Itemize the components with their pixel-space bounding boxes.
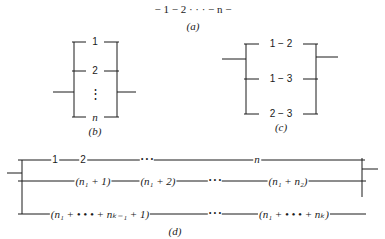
panel-b-caption: (b) <box>88 125 103 137</box>
diagram-canvas <box>0 0 385 239</box>
panel-d-row2-ellipsis: • • • <box>208 175 222 187</box>
panel-d-row1-item-2: 2 <box>79 154 87 166</box>
panel-a-chain: − 1 − 2 · · · − n − <box>153 3 232 15</box>
panel-d-row1-item-n: n <box>253 153 261 165</box>
panel-c-pair-1-2: 1 − 2 <box>269 38 294 50</box>
panel-d-lines <box>7 158 378 214</box>
panel-c-pair-1-3: 1 − 3 <box>269 73 294 85</box>
panel-d-caption: (d) <box>168 225 183 237</box>
panel-d-row3-item-last: (n₁ + • • • + nₖ) <box>258 208 330 220</box>
panel-d-row3-item-first: (n₁ + • • • + nₖ₋₁ + 1) <box>50 208 150 220</box>
panel-d-row2-item-last: (n₁ + n₂) <box>268 175 309 187</box>
panel-d-row1-item-1: 1 <box>51 154 59 166</box>
panel-b-lines <box>53 42 136 117</box>
panel-c-caption: (c) <box>274 121 288 133</box>
panel-d-row2-item-1: (n₁ + 1) <box>74 175 111 187</box>
panel-c-pair-2-3: 2 − 3 <box>269 108 294 120</box>
panel-d-row1-ellipsis: • • • <box>140 154 154 166</box>
panel-a-caption: (a) <box>186 20 201 32</box>
panel-b-item-1: 1 <box>91 36 99 48</box>
panel-b-ellipsis: ⋮ <box>88 88 103 100</box>
panel-d-row3-ellipsis: • • • <box>208 208 222 220</box>
panel-b-item-n: n <box>91 111 99 123</box>
panel-b-item-2: 2 <box>91 65 99 77</box>
panel-d-row2-item-2: (n₁ + 2) <box>139 175 176 187</box>
